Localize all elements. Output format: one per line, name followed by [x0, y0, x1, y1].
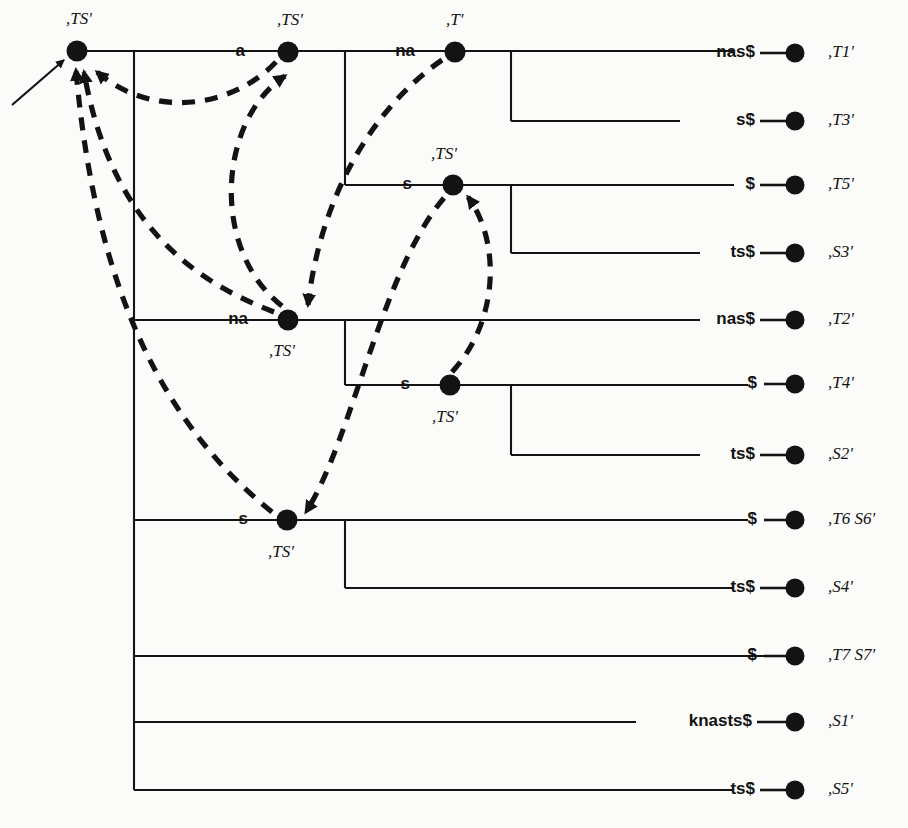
leaf-dot[interactable] [786, 647, 805, 666]
leaf-edge-label: $ [748, 645, 758, 664]
leaf-name-label: ,S5' [828, 779, 853, 798]
leaf-node[interactable]: nas$ ,T2' [716, 309, 854, 330]
tree-canvas: nas$ ,T1' s$ ,T3' $ ,T5' ts$ ,S3' [0, 0, 908, 828]
node-dot-na[interactable] [445, 42, 466, 63]
leaf-dot[interactable] [786, 511, 805, 530]
leaf-node[interactable]: ts$ ,S4' [730, 577, 853, 598]
leaf-name-label: ,T6 S6' [828, 509, 875, 528]
leaf-edge-label: ts$ [730, 577, 755, 596]
leaf-node[interactable]: nas$ ,T1' [716, 42, 854, 63]
leaf-name-label: ,T2' [828, 309, 854, 328]
leaf-name-label: ,T7 S7' [828, 645, 875, 664]
internal-node-na2[interactable]: ,TS' na [228, 309, 298, 359]
edge-label-na: na [395, 41, 415, 60]
leaf-name-label: ,S1' [828, 711, 853, 730]
leaf-dot[interactable] [786, 112, 805, 131]
node-label-na2: ,TS' [269, 341, 295, 360]
edge-label-a: a [236, 41, 246, 60]
leaf-name-label: ,T5' [828, 174, 854, 193]
leaf-edge-label: s$ [736, 110, 755, 129]
leaf-dot[interactable] [786, 375, 805, 394]
leaf-name-label: ,S3' [828, 242, 853, 261]
node-dot-na2[interactable] [278, 310, 299, 331]
leaf-edge-label: $ [748, 509, 758, 528]
edge-label-na2: na [228, 309, 248, 328]
suffix-link-as-to-s3[interactable] [306, 198, 444, 512]
leaf-dot[interactable] [786, 446, 805, 465]
node-label-na: ,T' [446, 10, 464, 29]
internal-node-root[interactable]: ,TS' [66, 9, 92, 62]
internal-node-a[interactable]: ,TS' a [236, 10, 304, 63]
node-label-s2: ,TS' [432, 407, 458, 426]
suffix-link-na2-to-a[interactable] [231, 76, 285, 306]
leaf-node[interactable]: knasts$ ,S1' [689, 711, 854, 732]
suffix-link-group [76, 60, 490, 512]
root-entry-arrow-icon [12, 60, 64, 105]
internal-node-s3[interactable]: ,TS' s [239, 509, 298, 560]
node-dot-s2[interactable] [440, 375, 461, 396]
leaf-name-label: ,T1' [828, 42, 854, 61]
leaf-name-label: ,T3' [828, 110, 854, 129]
leaf-edge-label: nas$ [716, 309, 755, 328]
leaf-node[interactable]: ts$ ,S3' [730, 242, 853, 263]
leaf-name-label: ,T4' [828, 373, 854, 392]
node-label-s3: ,TS' [268, 542, 294, 561]
leaf-group: nas$ ,T1' s$ ,T3' $ ,T5' ts$ ,S3' [689, 42, 876, 800]
leaf-name-label: ,S4' [828, 577, 853, 596]
leaf-node[interactable]: $ ,T6 S6' [748, 509, 876, 530]
leaf-dot[interactable] [786, 713, 805, 732]
leaf-edge-label: ts$ [730, 444, 755, 463]
leaf-node[interactable]: $ ,T7 S7' [748, 645, 876, 666]
node-dot-a[interactable] [278, 42, 299, 63]
leaf-dot[interactable] [786, 311, 805, 330]
leaf-node[interactable]: $ ,T4' [748, 373, 855, 394]
suffix-link-a-to-root[interactable] [97, 62, 276, 103]
internal-node-s2[interactable]: ,TS' s [401, 374, 461, 425]
leaf-name-label: ,S2' [828, 444, 853, 463]
internal-node-as[interactable]: ,TS' s [403, 144, 464, 196]
leaf-node[interactable]: $ ,T5' [746, 174, 855, 195]
edge-label-s3: s [239, 509, 248, 528]
edge-label-s2: s [401, 374, 410, 393]
leaf-dot[interactable] [786, 244, 805, 263]
leaf-dot[interactable] [786, 781, 805, 800]
node-dot-as[interactable] [443, 175, 464, 196]
leaf-dot[interactable] [786, 579, 805, 598]
leaf-dot[interactable] [786, 44, 805, 63]
leaf-edge-label: nas$ [716, 42, 755, 61]
leaf-dot[interactable] [786, 176, 805, 195]
leaf-node[interactable]: ts$ ,S5' [730, 779, 853, 800]
suffix-tree-figure: nas$ ,T1' s$ ,T3' $ ,T5' ts$ ,S3' [0, 0, 908, 828]
node-dot-root[interactable] [67, 41, 88, 62]
node-label-a: ,TS' [277, 10, 303, 29]
suffix-link-s2-to-as[interactable] [452, 197, 490, 372]
suffix-link-na-to-na2[interactable] [308, 60, 442, 305]
node-dot-s3[interactable] [277, 510, 298, 531]
leaf-node[interactable]: ts$ ,S2' [730, 444, 853, 465]
internal-node-na[interactable]: ,T' na [395, 10, 465, 63]
node-label-as: ,TS' [431, 144, 457, 163]
suffix-link-na2-to-root[interactable] [84, 72, 274, 312]
node-label-root: ,TS' [66, 9, 92, 28]
leaf-node[interactable]: s$ ,T3' [736, 110, 854, 131]
leaf-edge-label: knasts$ [689, 711, 753, 730]
leaf-edge-label: ts$ [730, 779, 755, 798]
leaf-edge-label: $ [748, 373, 758, 392]
leaf-edge-label: $ [746, 174, 756, 193]
edge-label-as: s [403, 174, 412, 193]
leaf-edge-label: ts$ [730, 242, 755, 261]
